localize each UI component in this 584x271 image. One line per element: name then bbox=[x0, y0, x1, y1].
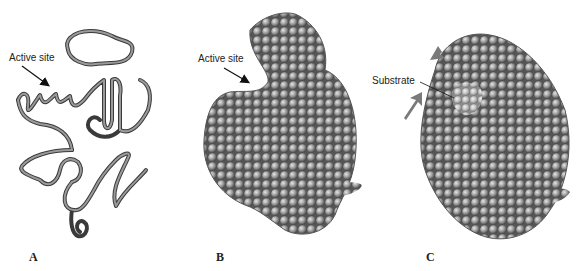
substrate-bound-structure bbox=[390, 0, 584, 271]
panel-c: Substrate C bbox=[390, 0, 584, 271]
panel-letter-b: B bbox=[216, 250, 224, 265]
substrate-label: Substrate bbox=[372, 75, 415, 86]
arrow-icon bbox=[224, 68, 248, 82]
panel-a: Active site A bbox=[0, 0, 190, 271]
arrow-out-icon bbox=[404, 92, 422, 120]
panel-letter-c: C bbox=[426, 250, 435, 265]
panel-letter-a: A bbox=[29, 250, 38, 265]
panel-b: Active site B bbox=[190, 0, 390, 271]
space-filling-structure bbox=[190, 0, 390, 271]
arrow-icon bbox=[22, 66, 48, 85]
ribbon-structure bbox=[0, 0, 190, 271]
